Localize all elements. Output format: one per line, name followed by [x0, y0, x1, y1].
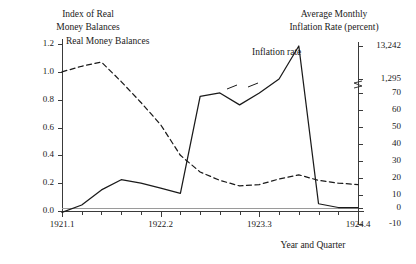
series-group	[62, 46, 358, 212]
plot-canvas	[0, 0, 416, 264]
series-line-inflation-rate	[62, 46, 358, 212]
scale-break-hash-2	[248, 83, 258, 87]
chart-figure: Index of Real Money Balances Average Mon…	[0, 0, 416, 264]
scale-break-hash-1	[227, 85, 237, 89]
right-axis-break-mark	[354, 81, 362, 88]
